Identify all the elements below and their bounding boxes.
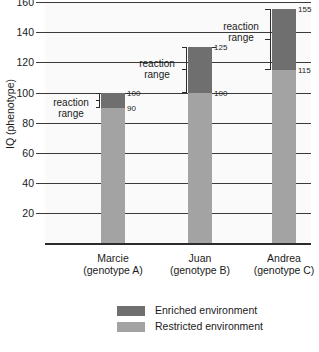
bar-andrea[interactable] [272, 9, 296, 243]
legend-swatch-restricted [117, 322, 145, 332]
reaction-range-bracket-juan [182, 47, 188, 93]
y-tick-label-160: 160 [2, 0, 34, 7]
reaction-range-bracket-andrea [265, 9, 272, 70]
bar-juan[interactable] [188, 47, 212, 243]
bar-marcie-mid-value-label: 90 [127, 105, 136, 113]
bar-juan-mid-value-label: 100 [214, 90, 227, 98]
y-tick-label-120: 120 [2, 57, 34, 67]
y-tick-label-80: 80 [2, 118, 34, 128]
reaction-range-line2-juan: range [144, 69, 170, 80]
tick-140 [36, 32, 45, 33]
y-tick-label-140: 140 [2, 27, 34, 37]
bar-andrea-mid-value-label: 115 [298, 67, 311, 75]
bar-marcie-enriched-segment [101, 93, 125, 108]
y-tick-label-60: 60 [2, 148, 34, 158]
bar-juan-restricted-segment [188, 93, 212, 243]
category-person-andrea: Andrea [267, 252, 301, 264]
bar-marcie-top-value-label: 100 [127, 90, 140, 98]
legend-label-restricted: Restricted environment [155, 320, 263, 332]
tick-20 [36, 213, 45, 214]
category-genotype-juan: (genotype B) [170, 264, 230, 276]
tick-80 [36, 123, 45, 124]
reaction-range-line2-andrea: range [228, 32, 254, 43]
category-person-marcie: Marcie [97, 252, 129, 264]
bar-juan-top-leader [212, 47, 216, 48]
legend-swatch-enriched [117, 306, 145, 316]
bar-andrea-enriched-segment [272, 9, 296, 70]
category-person-juan: Juan [189, 252, 212, 264]
y-tick-label-40: 40 [2, 178, 34, 188]
x-axis-baseline [45, 243, 311, 245]
tick-40 [36, 183, 45, 184]
reaction-range-bracket-marcie [96, 93, 101, 108]
tick-160 [36, 2, 45, 3]
tick-100 [36, 93, 45, 94]
bar-juan-top-value-label: 125 [214, 44, 227, 52]
y-tick-label-20: 20 [2, 208, 34, 218]
reaction-range-label-juan: reaction range [128, 58, 186, 80]
tick-120 [36, 62, 45, 63]
category-label-marcie: Marcie (genotype A) [73, 252, 153, 276]
reaction-range-line2-marcie: range [58, 108, 84, 119]
category-label-juan: Juan (genotype B) [160, 252, 240, 276]
category-label-andrea: Andrea (genotype C) [244, 252, 319, 276]
category-genotype-andrea: (genotype C) [254, 264, 315, 276]
reaction-range-line1-andrea: reaction [223, 21, 259, 32]
reaction-range-bar-chart: IQ (phenotype) 160 140 120 100 80 60 40 … [0, 0, 319, 352]
bar-marcie-top-leader [125, 93, 129, 94]
tick-60 [36, 153, 45, 154]
gridline-160 [45, 2, 311, 3]
bar-juan-enriched-segment [188, 47, 212, 93]
bar-andrea-restricted-segment [272, 70, 296, 243]
bar-andrea-top-value-label: 155 [298, 6, 311, 14]
reaction-range-line1-marcie: reaction [53, 97, 89, 108]
reaction-range-label-marcie: reaction range [42, 97, 100, 119]
reaction-range-label-andrea: reaction range [212, 21, 270, 43]
category-genotype-marcie: (genotype A) [83, 264, 143, 276]
y-tick-label-100: 100 [2, 88, 34, 98]
reaction-range-line1-juan: reaction [139, 58, 175, 69]
legend-label-enriched: Enriched environment [155, 304, 257, 316]
bar-marcie[interactable] [101, 93, 125, 243]
bar-marcie-restricted-segment [101, 108, 125, 243]
